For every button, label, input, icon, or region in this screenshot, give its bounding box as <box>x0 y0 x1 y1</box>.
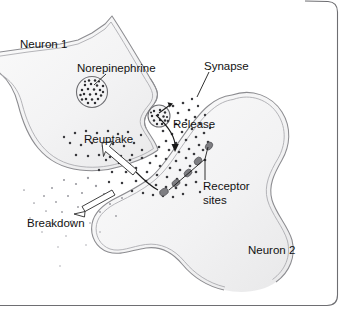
label-receptor-sites-line1: Receptor <box>203 180 250 192</box>
norepinephrine-vesicle <box>77 77 108 108</box>
label-neuron-2: Neuron 2 <box>248 244 295 256</box>
label-reuptake: Reuptake <box>84 133 133 145</box>
label-release: Release <box>173 118 215 130</box>
label-norepinephrine: Norepinephrine <box>77 62 156 74</box>
label-breakdown: Breakdown <box>27 217 85 229</box>
fusing-vesicle <box>148 105 170 127</box>
label-neuron-1: Neuron 1 <box>20 38 67 50</box>
figure-root: Neuron 1 Norepinephrine Synapse Release … <box>0 0 356 311</box>
label-receptor-sites-line2: sites <box>203 194 227 206</box>
synapse-diagram: Neuron 1 Norepinephrine Synapse Release … <box>0 0 356 311</box>
label-synapse: Synapse <box>204 60 249 72</box>
synapse-leader-line <box>197 72 209 97</box>
